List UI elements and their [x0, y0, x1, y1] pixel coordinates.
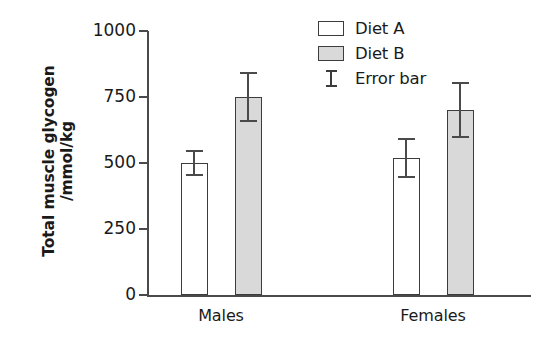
bar-males-diet-b: [235, 97, 262, 295]
error-bar-cap-bottom: [398, 176, 415, 178]
y-tick-label-500: 500: [74, 152, 136, 172]
bar-males-diet-a: [181, 163, 208, 295]
error-bar-cap-bottom: [452, 136, 469, 138]
legend: Diet A Diet B Error bar: [318, 16, 426, 91]
y-tick-label-750: 750: [74, 86, 136, 106]
error-bar-males-diet-b: [238, 72, 258, 122]
x-axis-label-females: Females: [373, 306, 493, 325]
legend-item-diet-b: Diet B: [318, 41, 426, 66]
legend-item-diet-a: Diet A: [318, 16, 426, 41]
bar-chart: Total muscle glycogen /mmol/kg 1000 750 …: [0, 0, 551, 347]
y-tick-label-0: 0: [74, 284, 136, 304]
error-bar-cap-top: [186, 150, 203, 152]
legend-label-diet-b: Diet B: [355, 44, 404, 63]
legend-error-bar-cap-bottom: [326, 85, 337, 87]
legend-swatch-diet-a-icon: [318, 21, 344, 36]
legend-swatch-diet-b-icon: [318, 46, 344, 61]
x-axis-label-males: Males: [161, 306, 281, 325]
error-bar-stem: [459, 82, 461, 137]
x-axis-line: [147, 295, 531, 297]
y-tick-label-250: 250: [74, 218, 136, 238]
legend-error-bar-cap-top: [326, 70, 337, 72]
legend-label-error-bar: Error bar: [355, 69, 426, 88]
y-axis-title-line-1: Total muscle glycogen: [41, 65, 57, 256]
bar-females-diet-a: [393, 158, 420, 295]
error-bar-cap-top: [398, 138, 415, 140]
error-bar-cap-top: [240, 72, 257, 74]
y-tick-label-1000: 1000: [74, 20, 136, 40]
error-bar-stem: [405, 138, 407, 178]
error-bar-females-diet-a: [396, 138, 416, 178]
legend-label-diet-a: Diet A: [355, 19, 404, 38]
error-bar-cap-bottom: [240, 120, 257, 122]
error-bar-stem: [247, 72, 249, 122]
error-bar-stem: [193, 150, 195, 175]
bar-females-diet-b: [447, 110, 474, 295]
error-bar-males-diet-a: [184, 150, 204, 175]
error-bar-females-diet-b: [450, 82, 470, 137]
y-axis-title-line-2: /mmol/kg: [59, 121, 75, 201]
legend-item-error-bar: Error bar: [318, 66, 426, 91]
error-bar-cap-top: [452, 82, 469, 84]
error-bar-cap-bottom: [186, 174, 203, 176]
legend-error-bar-icon: [318, 70, 344, 87]
